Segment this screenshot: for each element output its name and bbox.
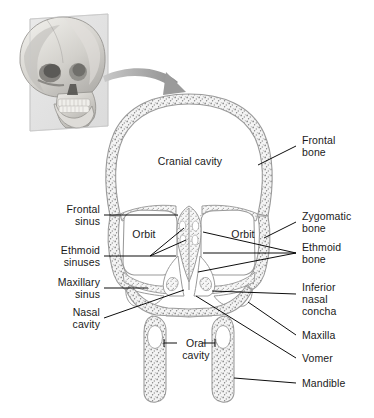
label-vomer: Vomer [302, 352, 374, 364]
inset-orbit-left-inner [44, 64, 61, 78]
label-orbit-right: Orbit [223, 228, 263, 240]
label-frontal-sinus: Frontal sinus [20, 203, 100, 227]
leader-maxilla [248, 302, 296, 335]
inset-upper-teeth [58, 99, 90, 107]
mandibular-tooth-right [216, 326, 231, 349]
label-oral-cavity: Oral cavity [176, 337, 216, 361]
label-ethmoid-sinuses: Ethmoid sinuses [20, 244, 100, 268]
label-nasal-cavity: Nasal cavity [20, 306, 100, 330]
label-ethmoid-bone: Ethmoid bone [302, 241, 374, 265]
mandible-left [144, 316, 166, 402]
label-zygomatic-bone: Zygomatic bone [302, 210, 374, 234]
inset-orbit-right-inner [73, 64, 86, 77]
skull-coronal-section-figure: Cranial cavity Orbit Orbit Oral cavity F… [0, 0, 374, 418]
orbit-cavity-left [123, 210, 177, 275]
label-frontal-bone: Frontal bone [302, 134, 374, 158]
label-inferior-nasal-concha: Inferior nasal concha [302, 281, 374, 318]
pointer-arrow [103, 68, 186, 95]
label-cranial-cavity: Cranial cavity [150, 155, 230, 167]
orbit-cavity-right [201, 210, 255, 275]
mandibular-tooth-left [148, 326, 163, 349]
skull-photo-inset [20, 14, 108, 131]
label-maxilla: Maxilla [302, 329, 374, 341]
label-maxillary-sinus: Maxillary sinus [20, 276, 100, 300]
label-orbit-left: Orbit [124, 228, 164, 240]
label-mandible: Mandible [302, 377, 374, 389]
leader-mandible [234, 378, 296, 383]
